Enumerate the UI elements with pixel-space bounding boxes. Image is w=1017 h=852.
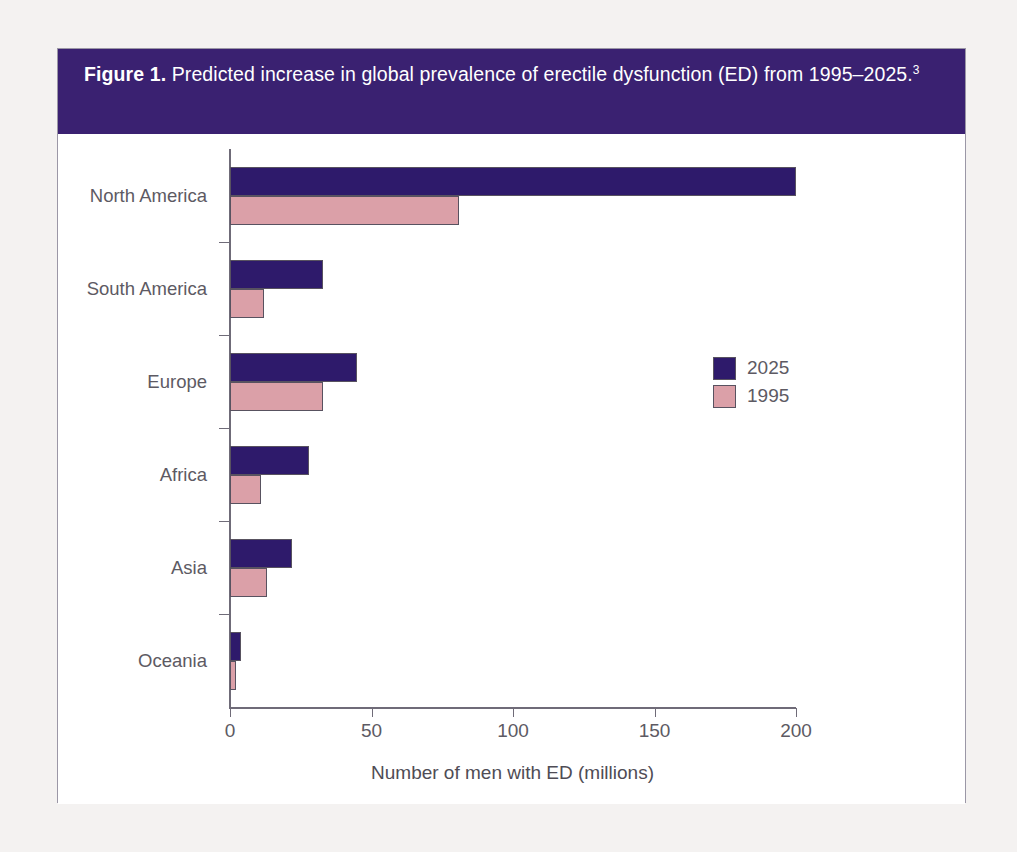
figure-caption-text: Predicted increase in global prevalence …: [166, 63, 913, 85]
y-axis-tick: [219, 242, 230, 243]
y-axis-category-label: Africa: [160, 464, 207, 486]
y-axis-category-label: Asia: [171, 557, 207, 579]
chart-plot-area: 050100150200 North AmericaSouth AmericaE…: [58, 134, 965, 804]
y-axis-category-label: South America: [87, 278, 207, 300]
bar-1995-south-america: [230, 289, 264, 318]
chart-legend: 20251995: [713, 356, 789, 412]
bar-1995-north-america: [230, 196, 459, 225]
x-axis-tick-label: 200: [780, 720, 812, 742]
figure-container: Figure 1. Predicted increase in global p…: [57, 48, 966, 803]
x-axis-tick: [796, 708, 797, 717]
bar-1995-africa: [230, 475, 261, 504]
y-axis-tick: [219, 335, 230, 336]
bar-2025-south-america: [230, 260, 323, 289]
y-axis-tick: [219, 614, 230, 615]
legend-swatch-icon: [713, 385, 736, 408]
x-axis-tick: [230, 708, 231, 717]
legend-label: 1995: [747, 385, 789, 407]
x-axis-tick: [513, 708, 514, 717]
bar-1995-europe: [230, 382, 323, 411]
figure-reference-superscript: 3: [913, 63, 920, 77]
x-axis-tick: [372, 708, 373, 717]
x-axis-tick: [655, 708, 656, 717]
bar-2025-africa: [230, 446, 309, 475]
figure-number-label: Figure 1.: [84, 63, 166, 85]
bar-2025-europe: [230, 353, 357, 382]
legend-item: 1995: [713, 384, 789, 408]
bar-2025-oceania: [230, 632, 241, 661]
y-axis-category-label: Europe: [147, 371, 207, 393]
x-axis-tick-label: 100: [497, 720, 529, 742]
y-axis-category-label: North America: [90, 185, 207, 207]
legend-swatch-icon: [713, 357, 736, 380]
x-axis-tick-label: 0: [225, 720, 236, 742]
legend-label: 2025: [747, 357, 789, 379]
y-axis-tick: [219, 521, 230, 522]
x-axis-tick-label: 150: [639, 720, 671, 742]
bar-2025-asia: [230, 539, 292, 568]
bar-1995-asia: [230, 568, 267, 597]
x-axis-title: Number of men with ED (millions): [229, 762, 796, 784]
y-axis-category-label: Oceania: [138, 650, 207, 672]
bar-2025-north-america: [230, 167, 796, 196]
bar-1995-oceania: [230, 661, 236, 690]
x-axis-tick-label: 50: [361, 720, 382, 742]
figure-caption: Figure 1. Predicted increase in global p…: [84, 61, 939, 89]
figure-caption-band: Figure 1. Predicted increase in global p…: [58, 49, 965, 134]
y-axis-tick: [219, 428, 230, 429]
legend-item: 2025: [713, 356, 789, 380]
